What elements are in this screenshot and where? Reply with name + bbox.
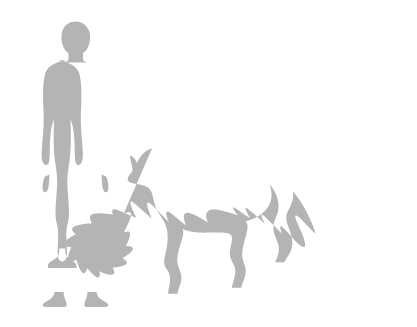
silhouette-canvas xyxy=(0,0,417,327)
size-comparison-diagram: Size comparison silhouette: standing hum… xyxy=(0,0,417,327)
